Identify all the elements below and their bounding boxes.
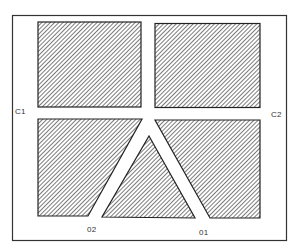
top-left-block xyxy=(38,22,141,107)
opening-label-c1: C1 xyxy=(15,108,26,116)
opening-label-c2: C2 xyxy=(271,111,282,119)
site-plan-diagram xyxy=(0,0,295,248)
opening-label-02: 02 xyxy=(87,226,96,234)
opening-label-01: 01 xyxy=(199,229,208,237)
top-right-block xyxy=(155,24,260,108)
